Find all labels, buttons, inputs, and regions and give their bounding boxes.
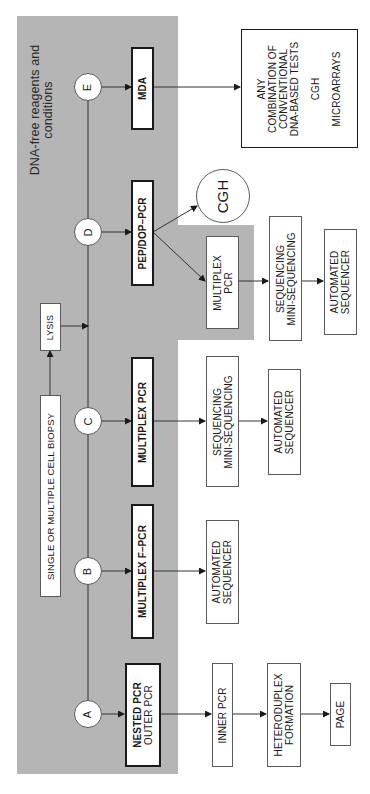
pep-dop-pcr-box: PEP/DOP–PCR <box>131 180 154 286</box>
d-automated-sequencer-box: AUTOMATED SEQUENCER <box>324 229 357 335</box>
multiplex-f-pcr-box: MULTIPLEX F–PCR <box>131 504 154 639</box>
c-sequencing-box: SEQUENCING MINI-SEQUENCING <box>206 356 239 487</box>
mda-label: MDA <box>137 77 148 100</box>
mda-box: MDA <box>131 47 154 130</box>
d-sequencing-box: SEQUENCING MINI-SEQUENCING <box>269 216 302 341</box>
branch-b-node: B <box>74 557 102 585</box>
c-automated-sequencer-box: AUTOMATED SEQUENCER <box>268 369 301 475</box>
region-label: DNA-free reagents and conditions <box>22 20 62 200</box>
page-box: PAGE <box>330 683 351 746</box>
lysis-box: LYSIS <box>40 303 61 351</box>
branch-c-node: C <box>74 407 102 435</box>
b-automated-sequencer-box: AUTOMATED SEQUENCER <box>206 520 239 624</box>
cgh-node: CGH <box>196 169 250 223</box>
region-label-line2: conditions <box>42 45 55 176</box>
c-multiplex-pcr-label: MULTIPLEX PCR <box>137 381 148 462</box>
nested-pcr-box: NESTED PCR OUTER PCR <box>125 663 161 767</box>
branch-e-node: E <box>74 73 102 101</box>
c-multiplex-pcr-box: MULTIPLEX PCR <box>131 357 154 487</box>
multiplex-f-pcr-label: MULTIPLEX F–PCR <box>137 525 148 618</box>
combination-tests-box: ANY COMBINATION OF CONVENTIONAL DNA-BASE… <box>241 29 358 148</box>
biopsy-label: SINGLE OR MULTIPLE CELL BIOPSY <box>45 412 56 579</box>
lysis-label: LYSIS <box>45 314 56 339</box>
branch-d-node: D <box>74 218 102 246</box>
cgh-label: CGH <box>217 179 228 213</box>
biopsy-box: SINGLE OR MULTIPLE CELL BIOPSY <box>40 395 61 597</box>
region-label-line1: DNA-free reagents and <box>29 45 42 176</box>
pep-dop-pcr-label: PEP/DOP–PCR <box>137 197 148 269</box>
branch-a-node: A <box>74 700 102 728</box>
heteroduplex-formation-box: HETERODUPLEX FORMATION <box>267 663 301 767</box>
d-multiplex-pcr-box: MULTIPLEX PCR <box>206 236 239 329</box>
inner-pcr-box: INNER PCR <box>212 663 233 767</box>
